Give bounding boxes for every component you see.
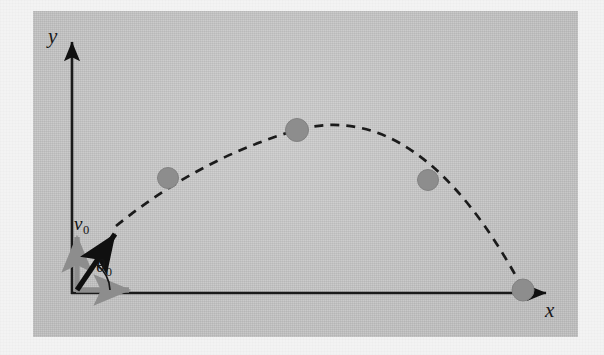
diagram-canvas (0, 0, 604, 355)
y-axis-label: y (48, 26, 57, 47)
projectile-motion-figure: y x v0 θ0 (0, 0, 604, 355)
v0-label-symbol: v (74, 213, 82, 234)
marker-ascending (158, 168, 179, 189)
theta0-label-subscript: 0 (106, 265, 112, 279)
marker-descending (418, 170, 439, 191)
trajectory-group (116, 125, 523, 289)
axes-group (71, 42, 546, 294)
v0-label: v0 (74, 214, 89, 236)
marker-landing (512, 279, 534, 301)
theta0-label-symbol: θ (96, 255, 105, 276)
marker-apex (286, 119, 309, 142)
x-axis-label: x (545, 300, 554, 321)
markers-group (158, 119, 535, 302)
theta0-label: θ0 (96, 256, 112, 278)
v0-label-subscript: 0 (83, 223, 89, 237)
trajectory-path (116, 125, 523, 289)
